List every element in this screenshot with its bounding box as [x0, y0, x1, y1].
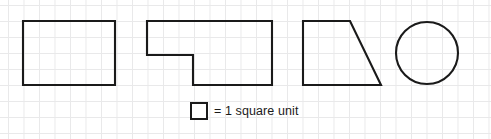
shape-l-shape [147, 21, 272, 85]
legend: = 1 square unit [190, 102, 299, 120]
shape-rectangle [23, 21, 115, 85]
legend-label: = 1 square unit [214, 105, 299, 118]
square-icon [190, 102, 208, 120]
shape-circle [396, 22, 458, 84]
figure-canvas: = 1 square unit [0, 0, 491, 139]
shape-trapezoid [303, 21, 381, 85]
